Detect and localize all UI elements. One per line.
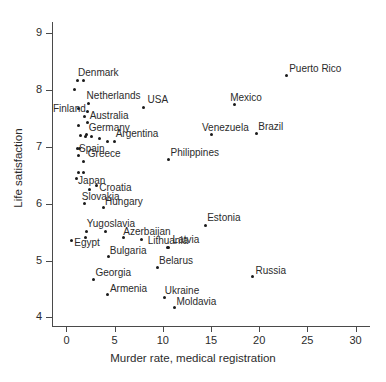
data-point [140, 238, 143, 241]
x-tick-label: 0 [51, 335, 81, 346]
data-point [82, 79, 85, 82]
data-point [83, 202, 86, 205]
x-tick-mark [115, 326, 116, 332]
y-tick-mark [46, 204, 52, 205]
x-tick-mark [163, 326, 164, 332]
data-point [251, 275, 254, 278]
data-point-label: Puerto Rico [289, 64, 341, 74]
y-axis-title: Life satisfaction [12, 88, 24, 248]
data-point-label: Egypt [74, 238, 100, 248]
y-tick-mark [46, 147, 52, 148]
data-point [84, 135, 87, 138]
data-point [98, 137, 101, 140]
x-tick-label: 30 [341, 335, 371, 346]
y-tick-mark [46, 33, 52, 34]
x-tick-mark [307, 326, 308, 332]
x-tick-mark [356, 326, 357, 332]
data-point-label: Netherlands [87, 91, 141, 101]
data-point [70, 239, 73, 242]
data-point [104, 230, 107, 233]
y-tick-mark [46, 317, 52, 318]
data-point [142, 106, 145, 109]
data-point-label: Armenia [110, 284, 147, 294]
data-point [85, 230, 88, 233]
x-tick-label: 5 [100, 335, 130, 346]
data-point-label: Belarus [159, 256, 193, 266]
data-point [77, 154, 80, 157]
data-point-label: Bulgaria [110, 246, 147, 256]
data-point [77, 124, 80, 127]
data-point [113, 140, 116, 143]
data-point-label: Mexico [230, 93, 262, 103]
scatter-plot-figure: DenmarkNetherlandsFinlandAustraliaUSAGer… [0, 0, 386, 382]
data-point-label: Ukraine [165, 286, 199, 296]
x-tick-label: 25 [292, 335, 322, 346]
data-point-label: Argentina [116, 129, 159, 139]
x-tick-mark [211, 326, 212, 332]
data-point [167, 246, 170, 249]
data-point-label: USA [148, 95, 169, 105]
data-point-label: Hungary [105, 197, 143, 207]
x-tick-label: 15 [196, 335, 226, 346]
data-point [204, 224, 207, 227]
data-point-label: Estonia [207, 213, 240, 223]
x-tick-mark [66, 326, 67, 332]
plot-area: DenmarkNetherlandsFinlandAustraliaUSAGer… [0, 0, 386, 382]
x-tick-label: 20 [244, 335, 274, 346]
data-point-label: Georgia [95, 268, 131, 278]
x-tick-mark [259, 326, 260, 332]
data-point [76, 79, 79, 82]
y-tick-mark [46, 90, 52, 91]
data-point [167, 158, 170, 161]
y-tick-mark [46, 261, 52, 262]
data-point-label: Russia [255, 266, 286, 276]
data-point [233, 103, 236, 106]
data-point-label: Latvia [173, 235, 200, 245]
y-axis-line [52, 22, 53, 326]
data-point [90, 135, 93, 138]
data-point [106, 140, 109, 143]
data-point [87, 102, 90, 105]
x-tick-label: 10 [148, 335, 178, 346]
y-tick-label: 4 [14, 311, 42, 322]
y-tick-label: 5 [14, 255, 42, 266]
data-point-label: Brazil [258, 122, 283, 132]
data-point [285, 74, 288, 77]
data-point [82, 171, 85, 174]
data-point [73, 88, 76, 91]
data-point [255, 132, 258, 135]
data-point-label: Finland [53, 104, 86, 114]
data-point-label: Venezuela [202, 123, 249, 133]
y-tick-label: 9 [14, 27, 42, 38]
data-point [83, 115, 86, 118]
data-point-label: Greece [88, 149, 121, 159]
x-axis-title: Murder rate, medical registration [0, 352, 386, 364]
data-point [79, 134, 82, 137]
data-point [95, 184, 98, 187]
data-point [77, 171, 80, 174]
data-point-label: Philippines [171, 148, 219, 158]
data-point-label: Denmark [78, 68, 119, 78]
data-point-label: Moldavia [176, 297, 216, 307]
data-point [82, 160, 85, 163]
data-point [210, 133, 213, 136]
data-point-label: Australia [90, 111, 129, 121]
